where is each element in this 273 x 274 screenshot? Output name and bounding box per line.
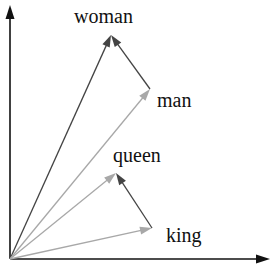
arrowhead-icon [256, 255, 270, 264]
arrowhead-icon [104, 173, 116, 184]
vector-king-to-queen [116, 173, 152, 228]
arrowhead-icon [116, 173, 126, 185]
y-axis [6, 5, 15, 259]
label-man: man [157, 90, 191, 110]
arrowhead-icon [6, 5, 15, 19]
vector-origin-to-woman [10, 35, 111, 259]
vector-man-to-woman [111, 35, 150, 89]
arrowhead-icon [102, 35, 111, 48]
arrowhead-icon [139, 227, 152, 235]
x-axis [10, 255, 270, 264]
label-queen: queen [113, 145, 161, 165]
axes [6, 5, 271, 264]
label-king: king [166, 225, 202, 245]
vector-origin-to-queen [10, 173, 116, 259]
arrowhead-icon [111, 35, 121, 47]
label-woman: woman [74, 6, 133, 26]
vector-origin-to-king [10, 227, 152, 259]
vector-diagram [0, 0, 273, 274]
arrowhead-icon [139, 89, 150, 101]
